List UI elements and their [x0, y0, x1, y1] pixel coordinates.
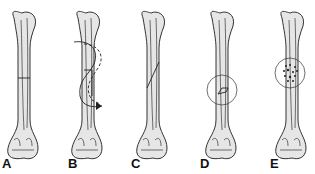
bone-a-illustration: [0, 0, 60, 174]
bone-d-illustration: [195, 0, 255, 174]
panel-label-c: C: [131, 157, 140, 170]
bone-c-illustration: [125, 0, 195, 174]
panel-c: C: [125, 0, 195, 174]
bone-e-illustration: [255, 0, 315, 174]
panel-a: A: [0, 0, 60, 174]
panel-label-b: B: [68, 157, 77, 170]
panel-b: B: [60, 0, 125, 174]
bone-b-illustration: [60, 0, 125, 174]
panel-label-e: E: [270, 157, 279, 170]
panel-e: E: [255, 0, 315, 174]
panel-d: D: [195, 0, 255, 174]
panel-label-a: A: [2, 157, 11, 170]
panel-label-d: D: [200, 157, 209, 170]
